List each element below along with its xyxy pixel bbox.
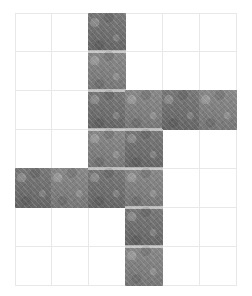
grid-cell[interactable]	[200, 91, 237, 130]
pencil-shaded-cell	[15, 168, 52, 208]
grid-cell[interactable]	[52, 52, 89, 91]
grid-cell[interactable]	[52, 208, 89, 247]
grid-cell[interactable]	[15, 247, 52, 286]
pencil-edge-top	[125, 207, 163, 209]
grid-cell[interactable]	[200, 52, 237, 91]
grid-cell[interactable]	[52, 247, 89, 286]
grid-cell[interactable]	[126, 130, 163, 169]
grid-cell[interactable]	[52, 13, 89, 52]
grid-cell[interactable]	[163, 52, 200, 91]
grid-cell[interactable]	[163, 169, 200, 208]
grid-cell[interactable]	[200, 247, 237, 286]
grid-cell[interactable]	[15, 169, 52, 208]
grid-cell[interactable]	[52, 130, 89, 169]
puzzle-canvas	[0, 0, 252, 296]
grid-cell[interactable]	[15, 52, 52, 91]
grid-cell[interactable]	[126, 169, 163, 208]
pencil-edge-top	[125, 246, 163, 248]
grid-cell[interactable]	[163, 247, 200, 286]
grid-cell[interactable]	[15, 91, 52, 130]
grid-cell[interactable]	[200, 169, 237, 208]
grid-cell[interactable]	[15, 130, 52, 169]
pencil-shaded-cell	[88, 13, 126, 52]
pencil-shaded-cell	[88, 90, 126, 130]
grid-cell[interactable]	[89, 169, 126, 208]
grid-cell[interactable]	[200, 130, 237, 169]
pencil-edge-top	[125, 129, 163, 131]
pencil-grid[interactable]	[15, 13, 237, 286]
grid-cell[interactable]	[89, 247, 126, 286]
grid-cell[interactable]	[126, 247, 163, 286]
grid-cell[interactable]	[52, 169, 89, 208]
grid-cell[interactable]	[126, 91, 163, 130]
grid-cell[interactable]	[89, 91, 126, 130]
pencil-shaded-cell	[51, 168, 89, 208]
grid-cell[interactable]	[163, 91, 200, 130]
pencil-shaded-cell	[125, 129, 163, 169]
pencil-edge-top	[125, 168, 163, 170]
grid-cell[interactable]	[126, 208, 163, 247]
grid-cell[interactable]	[15, 13, 52, 52]
pencil-shaded-cell	[162, 90, 200, 130]
pencil-shaded-cell	[125, 246, 163, 286]
grid-cell[interactable]	[200, 13, 237, 52]
grid-cell[interactable]	[15, 208, 52, 247]
grid-cell[interactable]	[163, 208, 200, 247]
pencil-edge-top	[88, 90, 126, 92]
grid-cell[interactable]	[126, 52, 163, 91]
grid-cell[interactable]	[89, 52, 126, 91]
grid-cell[interactable]	[200, 208, 237, 247]
grid-cell[interactable]	[89, 208, 126, 247]
pencil-edge-top	[88, 51, 126, 53]
grid-cell[interactable]	[52, 91, 89, 130]
grid-cell[interactable]	[163, 130, 200, 169]
pencil-edge-top	[88, 129, 126, 131]
grid-cell[interactable]	[163, 13, 200, 52]
pencil-shaded-cell	[125, 90, 163, 130]
grid-cell[interactable]	[89, 13, 126, 52]
pencil-shaded-cell	[88, 51, 126, 91]
pencil-shaded-cell	[199, 90, 237, 130]
pencil-shaded-cell	[88, 129, 126, 169]
pencil-shaded-cell	[88, 168, 126, 208]
grid-cell[interactable]	[89, 130, 126, 169]
pencil-shaded-cell	[125, 168, 163, 208]
grid-cell[interactable]	[126, 13, 163, 52]
pencil-edge-top	[88, 168, 126, 170]
pencil-shaded-cell	[125, 207, 163, 247]
